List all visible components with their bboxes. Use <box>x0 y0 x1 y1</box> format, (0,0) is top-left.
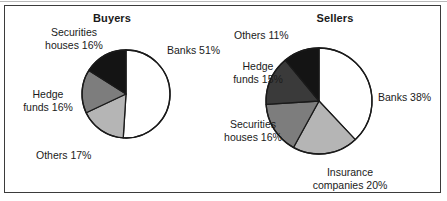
label-buyers-securities-houses: Securities houses 16% <box>10 26 138 51</box>
label-sellers-securities-houses: Securities houses 16% <box>207 118 299 143</box>
label-sellers-others: Others 11% <box>234 29 289 42</box>
label-line-1: Insurance <box>290 166 410 179</box>
page-top-rule <box>0 1 447 2</box>
label-line-2: companies 20% <box>290 179 410 192</box>
label-buyers-hedge-funds: Hedge funds 16% <box>8 88 88 113</box>
label-line-1: Securities <box>10 26 138 39</box>
label-sellers-banks: Banks 38% <box>378 91 431 104</box>
label-line-2: houses 16% <box>207 131 299 144</box>
panel-title-buyers: Buyers <box>0 12 224 24</box>
label-line-1: Hedge <box>8 88 88 101</box>
label-buyers-banks: Banks 51% <box>167 44 220 57</box>
pie-slice-banks <box>123 50 170 138</box>
label-line-1: Others 17% <box>36 149 91 162</box>
label-line-1: Others 11% <box>234 29 289 42</box>
label-line-1: Banks 38% <box>378 91 431 104</box>
label-sellers-hedge-funds: Hedge funds 15% <box>218 60 298 85</box>
label-line-2: funds 16% <box>8 101 88 114</box>
label-buyers-others: Others 17% <box>36 149 91 162</box>
label-line-2: funds 15% <box>218 73 298 86</box>
panel-title-sellers: Sellers <box>223 12 447 24</box>
label-line-2: houses 16% <box>10 39 138 52</box>
label-line-1: Banks 51% <box>167 44 220 57</box>
label-line-1: Securities <box>207 118 299 131</box>
chart-figure: Buyers Sellers Securities houses 16% Ban… <box>0 0 447 201</box>
label-sellers-insurance-companies: Insurance companies 20% <box>290 166 410 191</box>
label-line-1: Hedge <box>218 60 298 73</box>
